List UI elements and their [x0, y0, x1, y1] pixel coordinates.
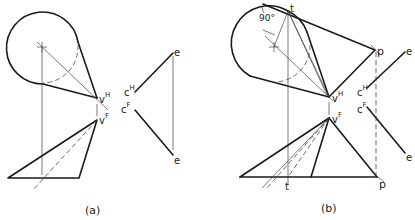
- label-e-bottom: e: [174, 155, 180, 166]
- label-e-top: e: [406, 46, 412, 57]
- cone-lower-tangent: [43, 84, 97, 98]
- radius-line: [274, 11, 288, 47]
- label-vF: vF: [332, 111, 342, 125]
- front-inner-edge: [311, 118, 329, 177]
- label-t-bottom: t: [285, 181, 289, 192]
- vH-to-p: [329, 50, 375, 97]
- cone-upper-tangent: [307, 32, 329, 97]
- cone-front-view: [8, 120, 97, 178]
- label-t-top: t: [290, 3, 294, 14]
- label-e-top: e: [174, 47, 180, 58]
- front-plane-edge: [329, 118, 377, 177]
- axis-line: [265, 36, 333, 101]
- plane-edge-front: [135, 110, 173, 155]
- caption-a: (a): [85, 204, 100, 217]
- label-cF: cF: [357, 101, 367, 115]
- label-cH: cH: [124, 84, 135, 98]
- label-p-top: p: [377, 45, 384, 58]
- label-vH: vH: [99, 91, 110, 105]
- descriptive-geometry-figure: vH vF cH cF e e (a): [0, 0, 415, 220]
- label-cH: cH: [357, 84, 368, 98]
- cone-lower-tangent: [250, 76, 329, 97]
- angle-arrow: [263, 30, 275, 35]
- label-e-bottom: e: [406, 152, 412, 163]
- panel-b: 90° t t p p vH vF cH cF e e (b): [231, 3, 412, 215]
- label-vF: vF: [99, 112, 109, 126]
- hidden-arc: [276, 45, 310, 82]
- label-p-bottom: p: [379, 178, 386, 191]
- plane-edge-top: [135, 53, 173, 92]
- cone-upper-tangent: [78, 42, 97, 98]
- label-90-degrees: 90°: [259, 13, 275, 23]
- plane-edge-top: [367, 52, 405, 88]
- label-vH: vH: [332, 90, 343, 104]
- label-cF: cF: [121, 101, 131, 115]
- plane-edge-front: [367, 107, 405, 153]
- panel-a: vH vF cH cF e e (a): [7, 12, 181, 217]
- hidden-arc: [43, 45, 78, 83]
- front-dashed-2: [288, 118, 329, 177]
- caption-b: (b): [321, 202, 337, 215]
- tangent-plane-top-edge: [263, 4, 375, 50]
- axis-line: [37, 42, 108, 110]
- element-line: [288, 11, 327, 95]
